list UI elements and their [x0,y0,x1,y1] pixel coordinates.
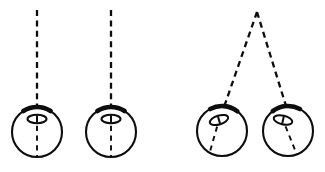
sphere-bore-pupil-4 [282,117,283,123]
diagram-background [0,0,325,172]
suspended-spheres-diagram [0,0,325,172]
figure-canvas [0,0,325,172]
